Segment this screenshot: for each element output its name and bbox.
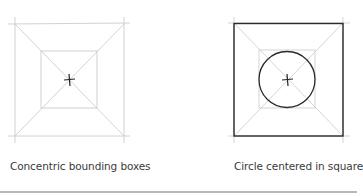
caption-concentric-boxes: Concentric bounding boxes xyxy=(10,160,151,172)
figure-circle-in-square xyxy=(228,17,350,143)
outer-box-top xyxy=(8,23,130,24)
caption-circle-in-square: Circle centered in square xyxy=(234,160,363,172)
divider xyxy=(0,191,357,193)
